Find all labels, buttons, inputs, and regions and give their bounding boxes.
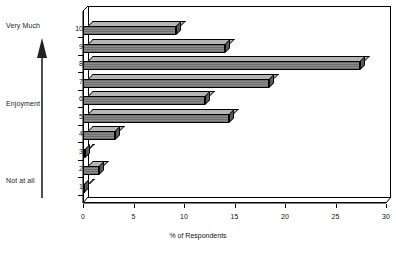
y-axis-tick-mark xyxy=(78,125,83,126)
bar xyxy=(83,21,181,35)
bars-layer xyxy=(0,0,396,257)
bar-side-face xyxy=(205,91,210,105)
y-axis-tick-mark xyxy=(78,90,83,91)
bar xyxy=(83,56,365,70)
bar xyxy=(83,109,234,123)
bar-front-face xyxy=(83,26,176,35)
bar-front-face xyxy=(83,166,99,175)
y-axis-tick-mark xyxy=(78,107,83,108)
bar xyxy=(83,126,120,140)
y-axis-tick-mark xyxy=(78,37,83,38)
bar-front-face xyxy=(83,131,115,140)
enjoyment-bar-chart: Very Much Enjoyment Not at all 123456789… xyxy=(0,0,396,257)
bar xyxy=(83,91,210,105)
bar-top-face xyxy=(88,179,95,184)
bar xyxy=(83,74,274,88)
bar-side-face xyxy=(115,126,120,140)
y-axis-tick-mark xyxy=(78,177,83,178)
bar xyxy=(83,161,104,175)
x-axis-title: % of Respondents xyxy=(0,232,396,239)
bar-front-face xyxy=(83,184,85,193)
bar xyxy=(83,39,230,53)
bar-front-face xyxy=(83,96,205,105)
y-axis-tick-mark xyxy=(78,160,83,161)
bar-side-face xyxy=(85,144,90,158)
y-axis-tick-mark xyxy=(78,142,83,143)
bar-side-face xyxy=(225,39,230,53)
y-axis-tick-mark xyxy=(78,55,83,56)
y-axis-tick-mark xyxy=(78,72,83,73)
bar-side-face xyxy=(176,21,181,35)
bar-front-face xyxy=(83,149,85,158)
bar-side-face xyxy=(99,161,104,175)
bar-front-face xyxy=(83,79,269,88)
bar-front-face xyxy=(83,44,225,53)
bar-front-face xyxy=(83,61,360,70)
bar xyxy=(83,144,90,158)
y-axis-tick-mark xyxy=(78,195,83,196)
bar xyxy=(83,179,89,193)
bar-front-face xyxy=(83,114,229,123)
